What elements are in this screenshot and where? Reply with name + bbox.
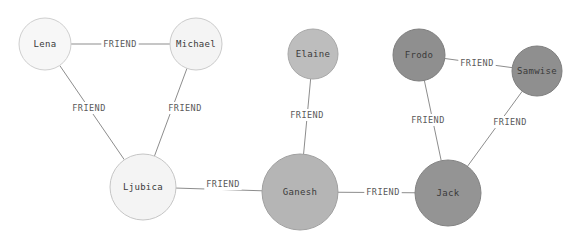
node-label: Jack — [437, 188, 460, 198]
edge-label: FRIEND — [168, 103, 202, 113]
graph-node-lena[interactable]: Lena — [19, 18, 71, 70]
edge-label: FRIEND — [290, 110, 324, 120]
graph-node-michael[interactable]: Michael — [170, 18, 222, 70]
edge-label: FRIEND — [460, 58, 494, 68]
nodes-layer: LenaMichaelLjubicaElaineGaneshFrodoSamwi… — [19, 18, 562, 230]
edge-label: FRIEND — [72, 103, 106, 113]
edge-label: FRIEND — [206, 179, 240, 189]
graph-edge[interactable] — [467, 91, 522, 166]
edge-label: FRIEND — [493, 117, 527, 127]
node-label: Michael — [176, 39, 216, 49]
graph-svg: FRIENDFRIENDFRIENDFRIENDFRIENDFRIENDFRIE… — [0, 0, 579, 244]
graph-node-ganesh[interactable]: Ganesh — [262, 154, 338, 230]
edge-label: FRIEND — [366, 187, 400, 197]
graph-node-jack[interactable]: Jack — [415, 160, 481, 226]
node-label: Ljubica — [123, 182, 163, 192]
node-label: Ganesh — [283, 187, 317, 197]
edge-label: FRIEND — [103, 39, 137, 49]
graph-node-elaine[interactable]: Elaine — [288, 29, 338, 79]
graph-node-samwise[interactable]: Samwise — [512, 46, 562, 96]
graph-node-frodo[interactable]: Frodo — [393, 29, 445, 81]
graph-canvas: FRIENDFRIENDFRIENDFRIENDFRIENDFRIENDFRIE… — [0, 0, 579, 244]
edge-label: FRIEND — [411, 115, 445, 125]
graph-node-ljubica[interactable]: Ljubica — [110, 154, 176, 220]
node-label: Lena — [34, 39, 57, 49]
node-label: Elaine — [296, 49, 330, 59]
node-label: Samwise — [517, 66, 557, 76]
node-label: Frodo — [405, 50, 434, 60]
